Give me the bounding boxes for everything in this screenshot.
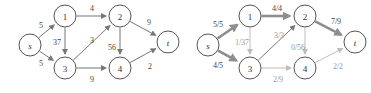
node-n4: 4: [294, 57, 316, 79]
node-label-n4: 4: [303, 64, 308, 74]
edge-label-n4-t: 2/2: [333, 62, 343, 71]
edge-label-n2-n4: 0/56: [291, 43, 305, 52]
node-n1: 1: [54, 5, 76, 27]
edge-s-n3: [218, 51, 236, 61]
edge-label-s-n3: 5: [39, 59, 43, 68]
node-label-s: s: [28, 41, 32, 51]
edge-label-n2-t: 7/9: [331, 17, 341, 26]
edge-label-s-n1: 5/5: [213, 20, 223, 29]
edge-n2-t: [130, 21, 156, 35]
node-s: s: [19, 34, 41, 56]
edge-label-n3-n2: 3: [90, 36, 94, 45]
figure-canvas: s1234ts1234t 554373569925/54/54/41/373/3…: [0, 0, 371, 93]
node-label-n3: 3: [248, 64, 253, 74]
node-label-s: s: [206, 41, 210, 51]
node-label-n4: 4: [118, 64, 123, 74]
node-label-n2: 2: [118, 12, 123, 22]
flow-network-figure: s1234ts1234t 554373569925/54/54/41/373/3…: [0, 0, 371, 93]
node-n1: 1: [239, 5, 261, 27]
node-n3: 3: [239, 57, 261, 79]
node-label-n2: 2: [303, 12, 308, 22]
node-label-n3: 3: [63, 64, 68, 74]
edge-label-n3-n2: 3/3: [274, 31, 284, 40]
edge-n4-t: [130, 49, 156, 63]
node-t: t: [344, 31, 366, 53]
node-s: s: [197, 34, 219, 56]
edge-label-n4-t: 2: [148, 62, 152, 71]
edge-label-s-n3: 4/5: [213, 61, 223, 70]
edge-label-n2-n4: 56: [108, 43, 116, 52]
edge-label-n1-n3: 37: [53, 38, 61, 47]
node-label-n1: 1: [63, 12, 68, 22]
edge-label-n2-t: 9: [147, 18, 151, 27]
node-n3: 3: [54, 57, 76, 79]
node-n4: 4: [109, 57, 131, 79]
edge-label-s-n1: 5: [39, 21, 43, 30]
edge-label-n1-n2: 4/4: [272, 4, 282, 13]
edge-label-n3-n4: 9: [90, 75, 94, 84]
edge-label-n1-n3: 1/37: [235, 38, 249, 47]
node-t: t: [157, 31, 179, 53]
node-n2: 2: [294, 5, 316, 27]
edge-label-n1-n2: 4: [90, 4, 94, 13]
node-n2: 2: [109, 5, 131, 27]
node-label-n1: 1: [248, 12, 253, 22]
edge-label-n3-n4: 2/9: [273, 75, 283, 84]
nodes-layer: s1234ts1234t: [19, 5, 366, 79]
